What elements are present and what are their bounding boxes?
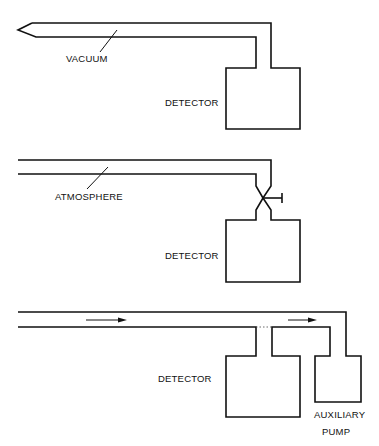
atmosphere-label: ATMOSPHERE (55, 191, 123, 202)
vacuum-label: VACUUM (66, 53, 108, 64)
pipe-outer (18, 23, 300, 129)
diagram-canvas: VACUUM DETECTOR ATMOSPHERE DETECTOR DETE… (0, 0, 379, 446)
pipe-top-wall (18, 312, 361, 417)
detector-label: DETECTOR (165, 250, 219, 261)
pump-label: PUMP (322, 426, 350, 437)
detector-label: DETECTOR (165, 97, 219, 108)
panel-vacuum: VACUUM DETECTOR (18, 23, 300, 129)
leader-line (87, 167, 108, 189)
flow-arrow-icon (86, 318, 127, 323)
panel-atmosphere: ATMOSPHERE DETECTOR (18, 160, 300, 282)
detector-label: DETECTOR (158, 373, 212, 384)
auxiliary-label: AUXILIARY (314, 409, 366, 420)
valve-icon (226, 198, 300, 282)
leader-line (100, 30, 117, 52)
panel-auxiliary-pump: DETECTOR AUXILIARY PUMP (18, 312, 366, 437)
flow-arrow-icon (288, 318, 317, 323)
